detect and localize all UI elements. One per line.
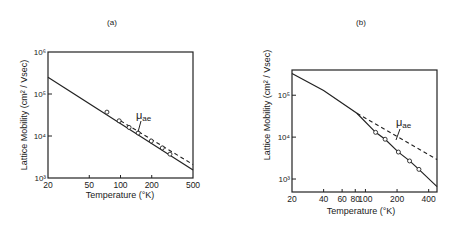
y-tick-label: 10⁵ [278,91,290,100]
panel-b-mu-ae-annotation: μae [396,116,412,130]
data-point-marker [383,137,387,141]
panel-b-title: (b) [356,18,366,27]
y-tick-label: 10⁶ [34,48,46,57]
x-tick-label: 100 [358,194,372,204]
x-tick-label: 40 [319,194,329,204]
x-tick-label: 20 [287,194,297,204]
x-tick-label: 400 [422,194,436,204]
y-tick-label: 10³ [278,175,290,184]
x-tick-label: 60 [337,194,347,204]
plot-frame [292,70,437,192]
chart-canvas: (a) Lattice Mobility (cm² / Vsec) Temper… [0,0,459,227]
panel-b-axes: 2040608010020040010³10⁴10⁵ [278,70,437,204]
data-point-marker [417,167,421,171]
y-tick-label: 10⁴ [34,132,47,141]
y-tick-label: 10⁵ [34,90,46,99]
panel-a-plot-area [48,77,193,170]
data-point-marker [160,146,164,150]
panel-a-y-axis-label: Lattice Mobility (cm² / Vsec) [19,60,29,171]
y-tick-label: 10⁴ [278,133,291,142]
panel-b-plot-area [292,74,437,187]
plot-frame [48,52,193,178]
chart-panel-b: (b) Lattice Mobility (cm² / Vsec) Temper… [262,18,437,216]
x-tick-label: 200 [145,180,159,190]
data-point-marker [168,152,172,156]
x-tick-label: 200 [390,194,404,204]
data-point-marker [117,119,121,123]
panel-a-mu-ae-annotation: μae [136,109,152,123]
y-tick-label: 10³ [34,174,46,183]
panel-a-title: (a) [107,18,117,27]
x-tick-label: 50 [85,180,95,190]
mobility-solid-curve [292,74,437,187]
data-point-marker [374,130,378,134]
x-tick-label: 100 [113,180,127,190]
chart-panel-a: (a) Lattice Mobility (cm² / Vsec) Temper… [19,18,200,200]
data-point-marker [396,150,400,154]
panel-a-annotation-leader [138,121,141,132]
data-point-marker [149,139,153,143]
panel-a-axes: 205010020050010³10⁴10⁵10⁶ [34,48,201,190]
data-point-marker [105,110,109,114]
data-point-marker [408,159,412,163]
panel-b-y-axis-label: Lattice Mobility (cm² / Vsec) [262,50,272,161]
figure: (a) Lattice Mobility (cm² / Vsec) Temper… [0,0,459,227]
x-tick-label: 500 [186,180,200,190]
panel-a-x-axis-label: Temperature (°K) [86,190,155,200]
panel-b-x-axis-label: Temperature (°K) [327,206,396,216]
data-point-marker [127,125,131,129]
